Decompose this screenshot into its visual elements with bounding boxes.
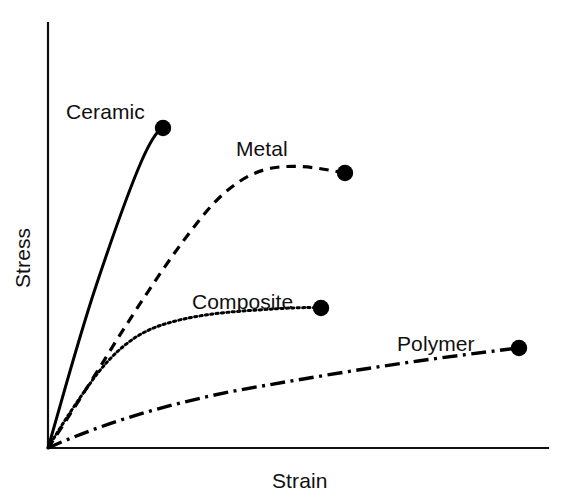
endpoint-dot-metal [337,165,353,181]
endpoint-dot-polymer [511,340,527,356]
curve-label-ceramic: Ceramic [66,100,145,123]
curve-label-metal: Metal [236,137,288,160]
y-axis-label: Stress [11,228,34,288]
endpoint-dot-ceramic [155,120,171,136]
chart-background [0,0,564,499]
chart-canvas: Ceramic Metal Composite Polymer Strain S… [0,0,564,499]
curve-label-composite: Composite [192,290,293,313]
stress-strain-chart: Ceramic Metal Composite Polymer Strain S… [0,0,564,499]
curve-label-polymer: Polymer [397,332,475,355]
x-axis-label: Strain [272,469,327,492]
endpoint-dot-composite [313,300,329,316]
